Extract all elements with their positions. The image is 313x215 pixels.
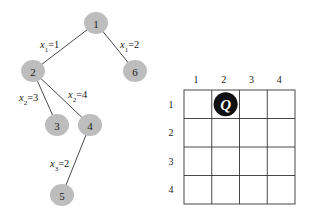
chess-board: 12341234Q — [169, 74, 296, 205]
node-label: 1 — [93, 18, 99, 30]
column-label: 2 — [221, 74, 226, 85]
edge-label: x1=2 — [119, 39, 139, 54]
node-label: 4 — [87, 120, 93, 132]
node-label: 3 — [54, 120, 60, 132]
tree-node-3: 3 — [45, 114, 69, 136]
node-label: 6 — [132, 66, 138, 78]
node-label: 5 — [59, 190, 65, 202]
tree-node-6: 6 — [123, 60, 147, 82]
tree-node-4: 4 — [78, 114, 102, 136]
edge-label: x3=2 — [49, 158, 69, 173]
n-queens-state-space-diagram: x1=1x1=2x2=3x2=4x3=2 126345 12341234Q — [0, 0, 313, 215]
row-label: 1 — [169, 99, 174, 110]
row-label: 3 — [169, 156, 174, 167]
queen-icon: Q — [214, 92, 238, 116]
edge-label: x1=1 — [39, 39, 59, 54]
row-label: 4 — [169, 184, 174, 195]
column-label: 3 — [249, 74, 254, 85]
tree-node-2: 2 — [21, 60, 45, 82]
tree-node-5: 5 — [50, 184, 74, 206]
svg-text:Q: Q — [220, 97, 231, 113]
row-label: 2 — [169, 127, 174, 138]
column-label: 1 — [193, 74, 198, 85]
edge-label: x2=3 — [18, 92, 38, 107]
column-label: 4 — [277, 74, 282, 85]
tree-node-1: 1 — [84, 12, 108, 34]
node-label: 2 — [30, 66, 36, 78]
edge-label: x2=4 — [67, 89, 88, 104]
